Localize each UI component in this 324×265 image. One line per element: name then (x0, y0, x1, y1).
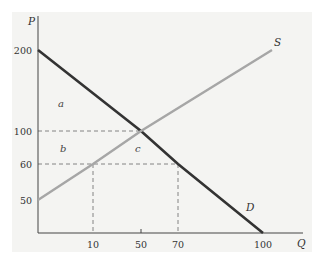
y-tick-label: 50 (20, 195, 32, 206)
x-tick-label: 100 (254, 239, 272, 250)
y-tick-label: 100 (14, 126, 32, 137)
y-tick-label: 60 (20, 159, 32, 170)
supply-curve (38, 50, 272, 200)
x-axis-title: Q (297, 237, 306, 250)
supply-demand-chart: 5060100200105070100SDabc P Q (0, 0, 324, 265)
x-tick-label: 10 (87, 239, 99, 250)
region-label-c: c (135, 143, 141, 154)
x-tick-label: 70 (172, 239, 184, 250)
demand-curve-label: D (245, 201, 255, 213)
region-label-b: b (60, 143, 66, 154)
y-axis-title: P (27, 15, 36, 27)
region-label-a: a (58, 98, 64, 109)
supply-curve-label: S (274, 36, 281, 48)
y-tick-label: 200 (14, 45, 32, 56)
x-tick-label: 50 (135, 239, 147, 250)
